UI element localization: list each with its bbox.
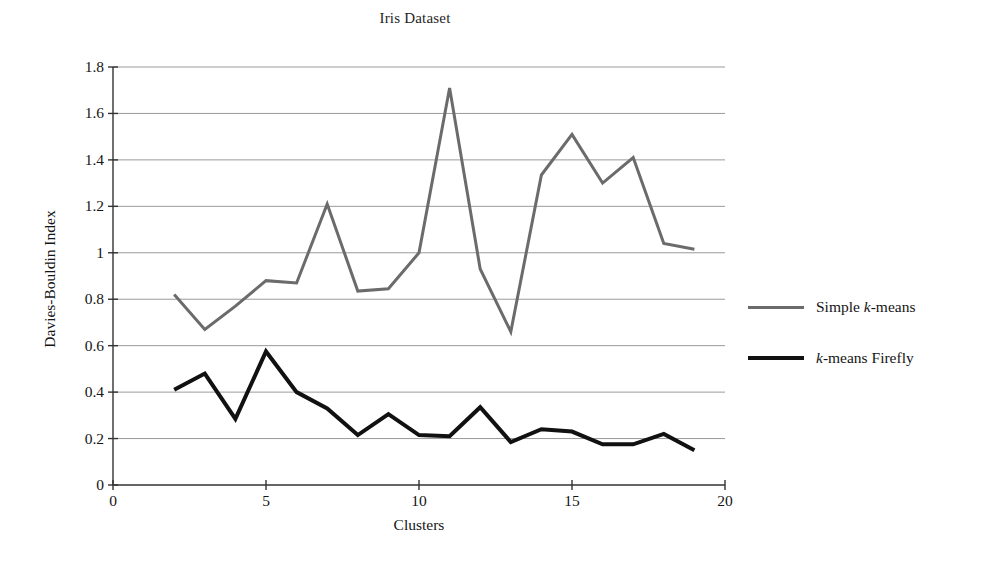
axis-ticks <box>108 67 725 490</box>
legend-label-1: Simple k-means <box>816 298 915 316</box>
series-line-2 <box>174 351 694 450</box>
data-series <box>174 88 694 450</box>
plot-area <box>0 0 981 570</box>
legend-swatch-1 <box>748 306 804 309</box>
legend-item-1: Simple k-means <box>748 297 915 317</box>
legend-swatch-2 <box>748 356 804 360</box>
series-line-1 <box>174 88 694 332</box>
legend-item-2: k-means Firefly <box>748 348 914 368</box>
legend-label-2: k-means Firefly <box>816 349 914 367</box>
axes <box>113 67 725 485</box>
chart-figure: Iris Dataset Davies-Bouldin Index Cluste… <box>0 0 981 570</box>
